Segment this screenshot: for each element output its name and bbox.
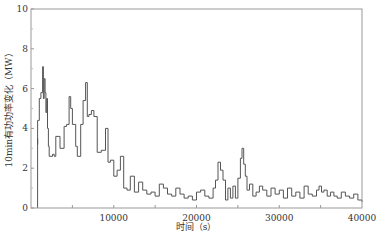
- y-tick-label: 2: [22, 163, 28, 173]
- x-axis-title: 时间（s）: [176, 221, 217, 232]
- x-tick-label: 30000: [265, 213, 294, 223]
- y-tick-label: 6: [22, 84, 28, 94]
- chart: 024681010000200003000040000 时间（s） 10min有…: [0, 0, 381, 242]
- series-line: [38, 67, 362, 208]
- y-tick-label: 8: [22, 44, 28, 54]
- y-tick-label: 0: [22, 203, 28, 213]
- x-tick-label: 40000: [348, 213, 377, 223]
- y-axis-title: 10min有功功率变化（MW）: [3, 48, 14, 167]
- y-tick-label: 10: [17, 4, 29, 14]
- axes: 024681010000200003000040000: [17, 4, 377, 223]
- x-tick-label: 10000: [99, 213, 128, 223]
- plot-area: [38, 67, 362, 208]
- y-tick-label: 4: [22, 123, 28, 133]
- plot-frame: [31, 9, 362, 208]
